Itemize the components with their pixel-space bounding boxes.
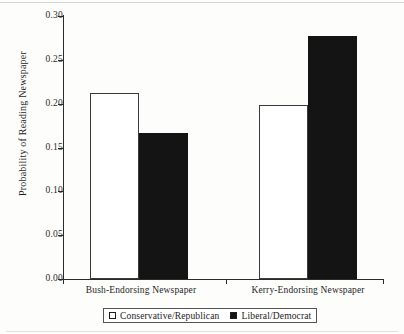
open-square-icon xyxy=(109,312,116,319)
x-axis-group-label: Bush-Endorsing Newspaper xyxy=(61,284,221,296)
legend-label-liberal-democrat: Liberal/Democrat xyxy=(241,311,311,321)
y-tick-label: 0.30 xyxy=(33,11,63,21)
y-tick-label: 0.05 xyxy=(33,230,63,240)
bar xyxy=(308,36,357,279)
legend-entry-conservative-republican: Conservative/Republican xyxy=(109,311,219,321)
bar xyxy=(259,105,308,279)
bar-chart-figure: Probability of Reading Newspaper 0.300.2… xyxy=(0,0,404,334)
legend-label-conservative-republican: Conservative/Republican xyxy=(120,311,219,321)
bar xyxy=(90,93,139,279)
scan-artifact-top xyxy=(0,2,404,3)
chart-legend: Conservative/Republican Liberal/Democrat xyxy=(103,308,317,323)
legend-entry-liberal-democrat: Liberal/Democrat xyxy=(230,311,311,321)
y-tick-label: 0.25 xyxy=(33,55,63,65)
filled-square-icon xyxy=(230,312,237,319)
x-axis-line xyxy=(63,279,383,280)
y-tick-label: 0.00 xyxy=(33,274,63,284)
scan-artifact-bottom xyxy=(6,331,398,332)
x-axis-group-label: Kerry-Endorsing Newspaper xyxy=(228,284,388,296)
y-tick-label: 0.15 xyxy=(33,143,63,153)
plot-area xyxy=(63,16,383,279)
x-axis-tick xyxy=(226,279,227,284)
bar xyxy=(139,133,188,279)
y-tick-label: 0.10 xyxy=(33,186,63,196)
y-tick-label: 0.20 xyxy=(33,99,63,109)
y-axis-title: Probability of Reading Newspaper xyxy=(17,19,28,229)
